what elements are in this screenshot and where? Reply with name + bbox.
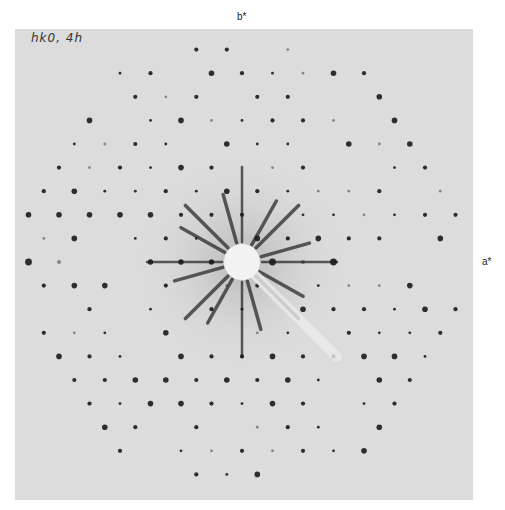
reflection-spot	[332, 449, 335, 452]
reflection-spot	[286, 236, 290, 240]
reflection-spot	[254, 236, 260, 242]
reflection-spot	[301, 449, 305, 453]
reflection-spot	[73, 143, 76, 146]
reflection-spot	[164, 143, 167, 146]
reflection-spot	[255, 378, 259, 382]
reflection-spot	[286, 190, 289, 193]
reflection-spot	[42, 189, 46, 193]
reflection-spot	[377, 377, 383, 383]
reflection-spot	[255, 189, 259, 193]
reflection-spot	[209, 354, 213, 358]
reflection-spot	[378, 284, 381, 287]
reflection-spot	[178, 118, 184, 124]
reflection-spot	[133, 377, 139, 383]
reflection-spot	[103, 143, 106, 146]
reflection-spot	[87, 307, 91, 311]
reflection-spot	[361, 448, 367, 454]
reflection-spot	[179, 213, 183, 217]
reflection-spot	[408, 378, 412, 382]
reflection-spot	[102, 424, 108, 430]
reflection-spot	[72, 236, 78, 242]
reflection-spot	[301, 118, 305, 122]
reflection-spot	[210, 119, 213, 122]
reflection-spot	[224, 377, 230, 383]
reflection-spot	[209, 213, 213, 217]
reflection-spot	[301, 402, 305, 406]
reflection-spot	[240, 449, 244, 453]
reflection-spot	[194, 48, 198, 52]
reflection-spot	[347, 236, 351, 240]
reflection-spot	[119, 72, 122, 75]
reflection-spot	[438, 331, 442, 335]
reflection-spot	[301, 166, 305, 170]
reflection-spot	[194, 378, 198, 382]
reflection-spot	[88, 166, 91, 169]
reflection-spot	[286, 48, 289, 51]
reflection-spot	[301, 354, 305, 358]
reflection-spot	[87, 118, 93, 124]
reflection-spot	[178, 401, 184, 407]
reflection-spot	[256, 143, 259, 146]
reflection-spot	[148, 71, 152, 75]
axis-label-b-star: b*	[237, 11, 246, 22]
reflection-spot	[72, 378, 76, 382]
reflection-spot	[163, 377, 169, 383]
reflection-spot	[423, 213, 427, 217]
reflection-spot	[346, 141, 352, 147]
reflection-spot	[332, 213, 335, 216]
reflection-spot	[164, 236, 168, 240]
reflection-spot	[209, 70, 215, 76]
reflection-spot	[149, 166, 152, 169]
reflection-spot	[178, 354, 184, 360]
reflection-spot	[422, 306, 428, 312]
reflection-spot	[148, 401, 154, 407]
reflection-spot	[453, 307, 457, 311]
reflection-spot	[195, 190, 198, 193]
reflection-spot	[286, 425, 290, 429]
reflection-spot	[240, 213, 244, 217]
reflection-spot	[393, 308, 396, 311]
reflection-spot	[87, 402, 91, 406]
reflection-spot	[302, 72, 305, 75]
reflection-spot	[180, 449, 183, 452]
reflection-spot	[393, 166, 396, 169]
reflection-spot	[255, 95, 259, 99]
reflection-spot	[194, 472, 198, 476]
reflection-spot	[240, 354, 244, 358]
reflection-spot	[209, 259, 214, 264]
reflection-spot	[270, 354, 276, 360]
reflection-spot	[256, 426, 259, 429]
reflection-spot	[241, 402, 244, 405]
reflection-spot	[133, 142, 137, 146]
reflection-spot	[423, 166, 427, 170]
reflection-spot	[72, 188, 78, 194]
reflection-spot	[134, 190, 137, 193]
reflection-spot	[119, 402, 122, 405]
reflection-spot	[194, 95, 198, 99]
reflection-spot	[225, 48, 229, 52]
reflection-spot	[72, 283, 78, 289]
reflection-spot	[302, 213, 305, 216]
reflection-spot	[407, 141, 413, 147]
reflection-spot	[330, 259, 337, 266]
reflection-spot	[377, 189, 381, 193]
reflection-spot	[331, 70, 337, 76]
reflection-spot	[210, 449, 213, 452]
reflection-spot	[241, 308, 244, 311]
reflection-spot	[42, 237, 45, 240]
reflection-spot	[377, 94, 383, 100]
reflection-spot	[362, 307, 366, 311]
reflection-spot	[133, 95, 137, 99]
reflection-spot	[240, 71, 244, 75]
reflection-spot	[316, 236, 322, 242]
reflection-spot	[271, 72, 274, 75]
reflection-spot	[270, 118, 274, 122]
reflection-spot	[209, 166, 213, 170]
reflection-spot	[317, 190, 320, 193]
reflection-spot	[133, 425, 137, 429]
reflection-spot	[286, 95, 290, 99]
reflection-spot	[286, 331, 289, 334]
reflection-spot	[163, 330, 169, 336]
reflection-spot	[87, 212, 93, 218]
handwritten-annotation: hk0, 4h	[31, 31, 83, 45]
